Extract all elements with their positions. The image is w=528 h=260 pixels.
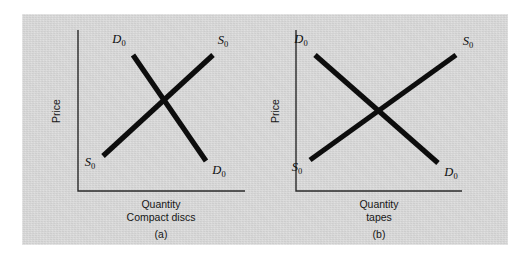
panel-a-x-axis-label-line1: Quantity	[141, 198, 181, 210]
panel-b-demand-label-bottom: D0	[443, 165, 457, 181]
panel-b-demand-label-bottom-sub: 0	[453, 171, 457, 181]
panel-a-supply-curve	[103, 55, 213, 156]
panel-b-x-axis-label-line2: tapes	[366, 211, 392, 223]
panel-b-demand-label-bottom-symbol: D	[443, 165, 453, 179]
panel-a-demand-label-top-symbol: D	[111, 32, 121, 46]
panel-a-plot: D0 S0 S0 D0 Price Quantity Compact discs…	[22, 14, 265, 245]
panel-b-supply-label-bottom-sub: 0	[298, 166, 302, 176]
panel-a-demand-label-bottom-sub: 0	[221, 169, 225, 179]
panel-a-supply-label-top-sub: 0	[224, 39, 228, 49]
panel-a-demand-label-bottom: D0	[211, 163, 225, 179]
panel-a-caption: (a)	[155, 228, 168, 240]
panel-b-x-axis-label-line1: Quantity	[359, 198, 399, 210]
panel-b-demand-label-top-symbol: D	[293, 32, 303, 46]
panel-a-supply-label-bottom-sub: 0	[91, 161, 95, 171]
panel-a-demand-label-bottom-symbol: D	[211, 163, 221, 177]
panel-a-x-axis-label-line2: Compact discs	[127, 211, 196, 223]
panel-b-supply-label-top-sub: 0	[469, 40, 473, 50]
panel-b-demand-label-top-sub: 0	[303, 38, 307, 48]
panel-b-y-axis-label: Price	[269, 99, 281, 123]
figure-root: D0 S0 S0 D0 Price Quantity Compact discs…	[0, 0, 528, 260]
panel-a-y-axis-label: Price	[50, 99, 62, 123]
panel-a-demand-label-top-sub: 0	[121, 38, 125, 48]
panel-b: D0 S0 S0 D0 Price Quantity tapes (b)	[265, 14, 508, 245]
panel-a: D0 S0 S0 D0 Price Quantity Compact discs…	[22, 14, 265, 245]
panel-a-demand-label-top: D0	[111, 32, 125, 48]
panel-a-supply-label-top: S0	[218, 33, 229, 49]
panel-b-plot: D0 S0 S0 D0 Price Quantity tapes (b)	[265, 14, 508, 245]
panel-a-supply-label-bottom: S0	[85, 155, 96, 171]
panel-b-supply-label-bottom: S0	[292, 160, 303, 176]
panel-b-demand-label-top: D0	[293, 32, 307, 48]
panel-b-supply-label-top: S0	[463, 34, 474, 50]
figure-plate: D0 S0 S0 D0 Price Quantity Compact discs…	[22, 14, 508, 245]
panel-b-caption: (b)	[373, 228, 386, 240]
